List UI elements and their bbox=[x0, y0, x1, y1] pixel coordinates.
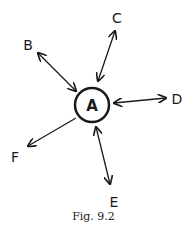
node-a-label: A bbox=[86, 97, 98, 115]
node-c-label: C bbox=[112, 10, 122, 26]
arrow-a-e bbox=[96, 127, 110, 184]
node-f-label: F bbox=[11, 149, 19, 165]
node-a: A bbox=[75, 88, 109, 122]
node-e-label: E bbox=[110, 194, 119, 210]
diagram-canvas: A B C D E F bbox=[0, 0, 187, 227]
node-d-label: D bbox=[172, 91, 183, 107]
arrow-a-c bbox=[98, 31, 115, 81]
node-b-label: B bbox=[23, 37, 33, 53]
arrow-a-d bbox=[114, 98, 166, 103]
arrow-a-f bbox=[28, 118, 76, 146]
figure-caption: Fig. 9.2 bbox=[0, 210, 187, 223]
arrow-a-b bbox=[38, 53, 76, 91]
